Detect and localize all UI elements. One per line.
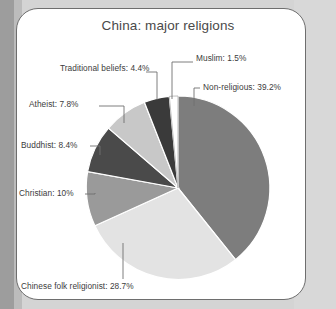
pie-chart: China: major religions [0,0,336,309]
pie-slices [86,96,270,279]
pie-label-traditional-beliefs: Traditional beliefs: 4.4% [60,63,150,73]
leader-line-muslim [172,62,193,99]
pie-label-christian: Christian: 10% [19,188,74,198]
leader-line-traditional-beliefs [146,72,157,100]
pie-label-muslim: Muslim: 1.5% [196,53,246,63]
pie-label-buddhist: Buddhist: 8.4% [21,140,78,150]
pie-label-chinese-folk-religionist: Chinese folk religionist: 28.7% [21,281,134,291]
pie-chart-svg [0,0,336,309]
pie-label-non-religious: Non-religious: 39.2% [203,82,281,92]
pie-label-atheist: Atheist: 7.8% [29,99,79,109]
